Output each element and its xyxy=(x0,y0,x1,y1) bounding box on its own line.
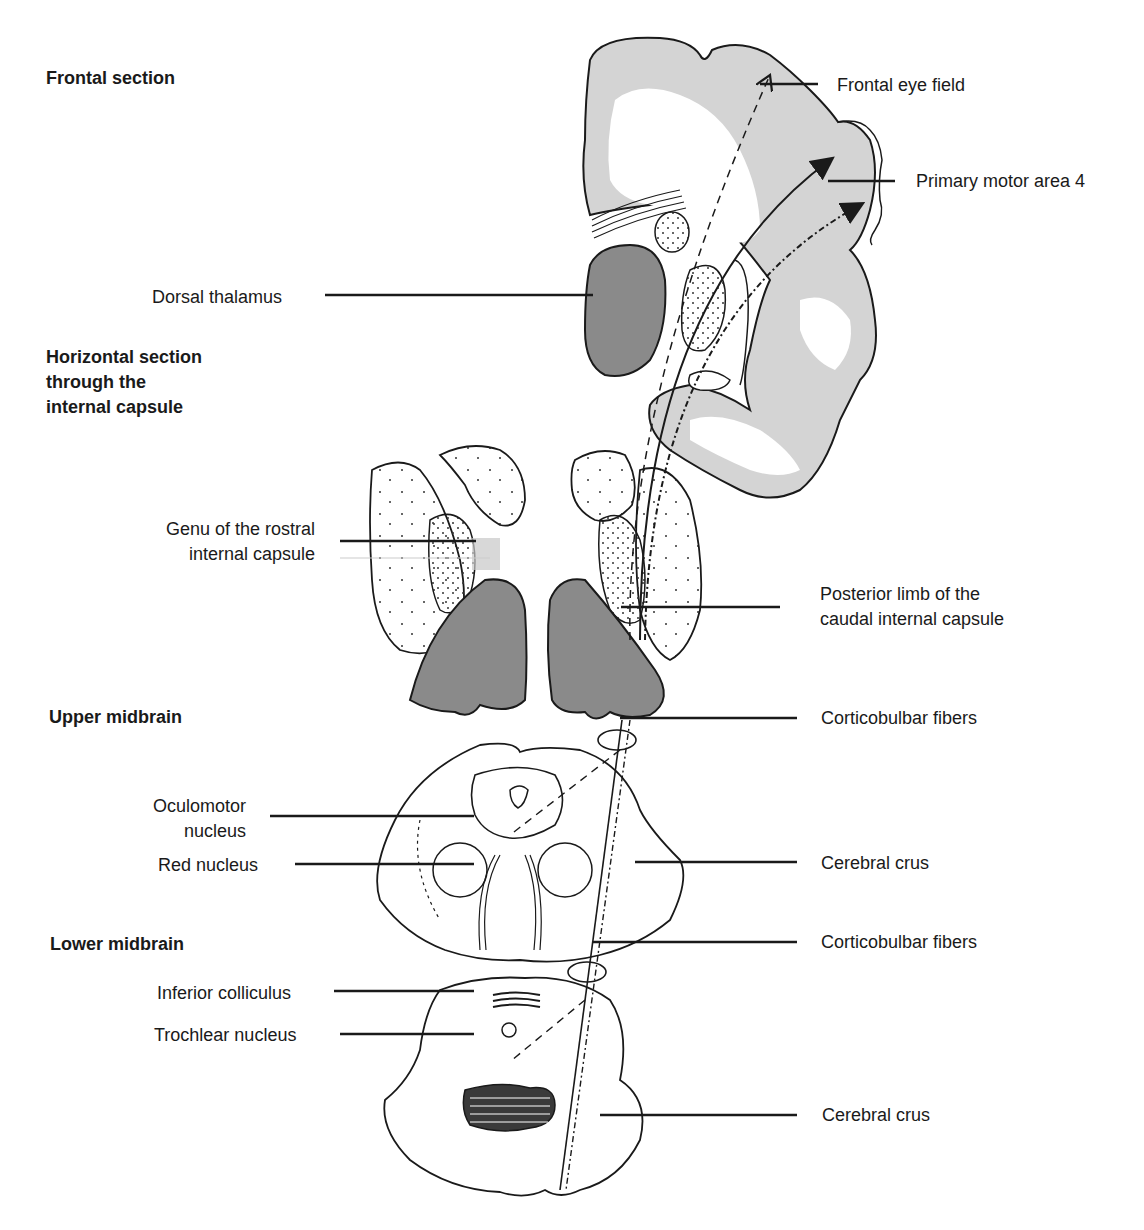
section-title-horizontal-line-1: Horizontal section xyxy=(46,345,202,370)
label-primary-motor-area-4: Primary motor area 4 xyxy=(916,169,1085,194)
label-inferior-colliculus: Inferior colliculus xyxy=(157,981,291,1006)
label-oculomotor-line-1: Oculomotor xyxy=(100,794,246,819)
label-dorsal-thalamus: Dorsal thalamus xyxy=(152,285,282,310)
label-cerebral-crus-upper: Cerebral crus xyxy=(821,851,929,876)
label-corticobulbar-fibers-upper: Corticobulbar fibers xyxy=(821,706,977,731)
lower-midbrain-section xyxy=(384,978,642,1196)
label-posterior-limb-line-1: Posterior limb of the xyxy=(820,582,1004,607)
label-oculomotor-nucleus: Oculomotor nucleus xyxy=(100,794,246,844)
label-oculomotor-line-2: nucleus xyxy=(100,819,246,844)
section-title-frontal: Frontal section xyxy=(46,66,175,91)
horizontal-section-right xyxy=(548,451,701,719)
section-title-lower-midbrain: Lower midbrain xyxy=(50,932,184,957)
label-frontal-eye-field: Frontal eye field xyxy=(837,73,965,98)
section-title-horizontal: Horizontal section through the internal … xyxy=(46,345,202,420)
horizontal-section-left xyxy=(370,446,527,715)
label-posterior-limb-line-2: caudal internal capsule xyxy=(820,607,1004,632)
label-genu-line-2: internal capsule xyxy=(100,542,315,567)
label-trochlear-nucleus: Trochlear nucleus xyxy=(154,1023,296,1048)
section-title-horizontal-line-3: internal capsule xyxy=(46,395,202,420)
label-genu-rostral-internal-capsule: Genu of the rostral internal capsule xyxy=(100,517,315,567)
label-genu-line-1: Genu of the rostral xyxy=(100,517,315,542)
dorsal-thalamus-shape xyxy=(585,245,665,376)
label-cerebral-crus-lower: Cerebral crus xyxy=(822,1103,930,1128)
section-title-horizontal-line-2: through the xyxy=(46,370,202,395)
label-posterior-limb-caudal-internal-capsule: Posterior limb of the caudal internal ca… xyxy=(820,582,1004,632)
label-red-nucleus: Red nucleus xyxy=(158,853,258,878)
section-title-upper-midbrain: Upper midbrain xyxy=(49,705,182,730)
upper-midbrain-section xyxy=(377,744,683,962)
label-corticobulbar-fibers-lower: Corticobulbar fibers xyxy=(821,930,977,955)
